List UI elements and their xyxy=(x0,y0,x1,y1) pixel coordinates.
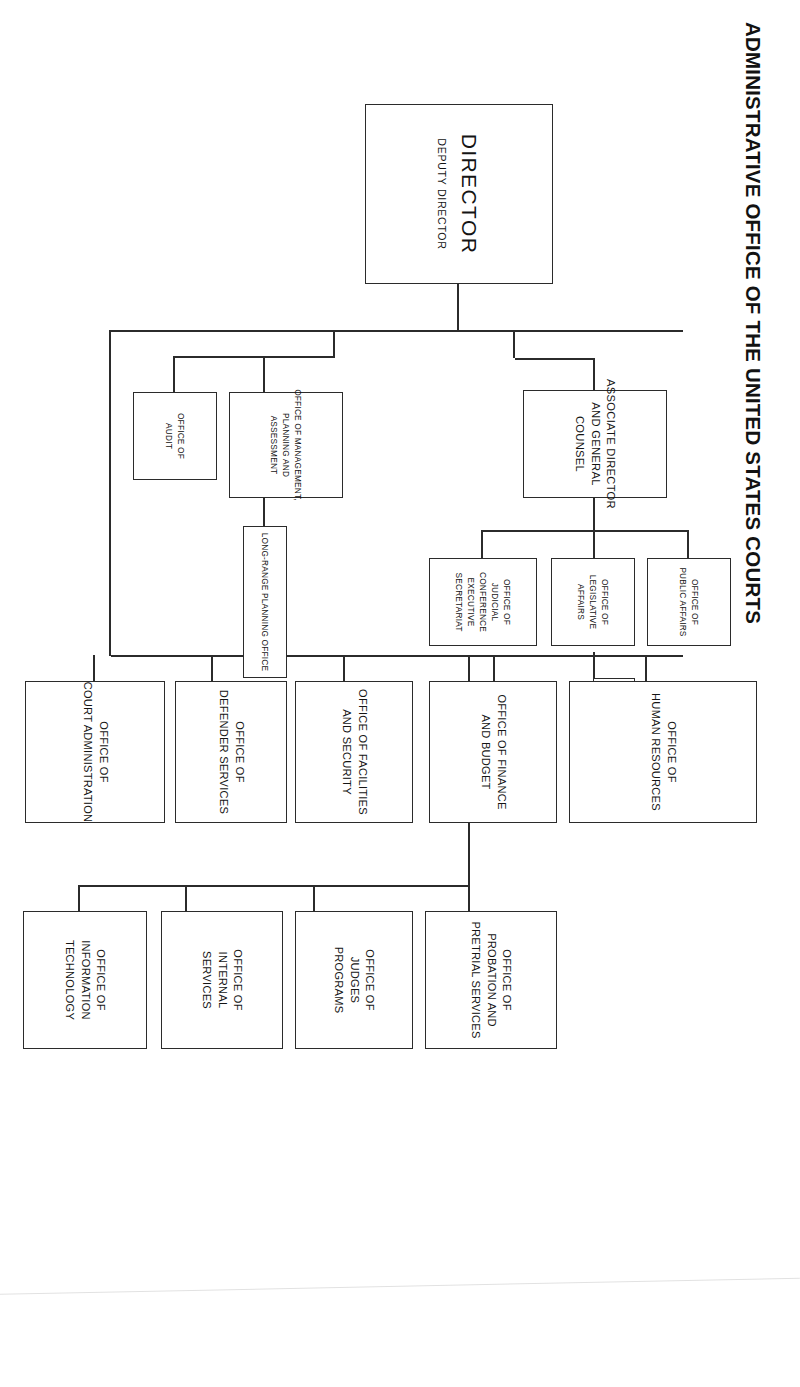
legislative-affairs-line-2: LEGISLATIVE xyxy=(587,575,599,630)
connector-audit-drop xyxy=(175,356,335,358)
connector-assoc-in xyxy=(593,358,595,390)
management-planning-line-2: PLANNING AND xyxy=(280,413,292,477)
connector-management-branch xyxy=(263,356,265,392)
connector-trunk-bridge xyxy=(109,330,111,656)
node-office-of-audit[interactable]: OFFICE OF AUDIT xyxy=(133,392,217,480)
assoc-line-2: AND GENERAL xyxy=(587,402,602,486)
connector-to-internal-services xyxy=(185,885,187,911)
probation-pretrial-line-1: OFFICE OF xyxy=(499,949,515,1010)
judicial-conference-line-3: CONFERENCE xyxy=(477,572,489,632)
judges-programs-line-1: OFFICE OF xyxy=(362,949,378,1010)
connector-to-probation-pretrial xyxy=(468,885,470,911)
connector-to-legislative-affairs xyxy=(593,530,595,558)
judicial-conference-line-2: JUDICIAL xyxy=(489,583,501,621)
judges-programs-line-2: JUDGES xyxy=(346,957,362,1004)
information-technology-line-1: OFFICE OF xyxy=(93,949,109,1010)
connector-to-court-administration xyxy=(93,655,95,681)
facilities-security-line-2: AND SECURITY xyxy=(338,709,354,795)
node-office-of-facilities-and-security[interactable]: OFFICE OF FACILITIES AND SECURITY xyxy=(295,681,413,823)
node-office-of-public-affairs[interactable]: OFFICE OF PUBLIC AFFAIRS xyxy=(647,558,731,646)
legislative-affairs-line-1: OFFICE OF xyxy=(599,579,611,625)
judicial-conference-line-1: OFFICE OF xyxy=(501,579,513,625)
node-office-of-internal-services[interactable]: OFFICE OF INTERNAL SERVICES xyxy=(161,911,283,1049)
judges-programs-line-3: PROGRAMS xyxy=(331,947,347,1014)
internal-services-line-2: INTERNAL xyxy=(214,952,230,1009)
internal-services-line-3: SERVICES xyxy=(199,951,215,1009)
chart-title: ADMINISTRATIVE OFFICE OF THE UNITED STAT… xyxy=(741,22,765,624)
court-administration-line-1: OFFICE OF xyxy=(95,721,111,782)
node-office-of-judicial-conference-executive-secretariat[interactable]: OFFICE OF JUDICIAL CONFERENCE EXECUTIVE … xyxy=(429,558,537,646)
information-technology-line-2: INFORMATION xyxy=(77,940,93,1020)
connector-to-finance-budget xyxy=(493,655,495,681)
director-title: DIRECTOR xyxy=(458,134,482,255)
connector-assoc-drop xyxy=(515,358,595,360)
node-long-range-planning-office[interactable]: LONG-RANGE PLANNING OFFICE xyxy=(243,526,287,678)
management-planning-line-3: ASSESSMENT xyxy=(268,416,280,475)
assoc-line-3: COUNSEL xyxy=(572,416,587,472)
finance-budget-line-1: OFFICE OF FINANCE xyxy=(493,694,509,809)
court-administration-line-2: COURT ADMINISTRATION xyxy=(79,682,95,823)
connector-long-range xyxy=(263,498,265,526)
long-range-planning-line-1: LONG-RANGE PLANNING OFFICE xyxy=(260,533,270,671)
connector-to-human-resources xyxy=(645,655,647,681)
human-resources-line-1: OFFICE OF xyxy=(663,721,679,782)
defender-services-line-1: OFFICE OF xyxy=(231,721,247,782)
connector-offices-trunk xyxy=(111,655,683,657)
node-office-of-information-technology[interactable]: OFFICE OF INFORMATION TECHNOLOGY xyxy=(23,911,147,1049)
connector-to-judges-programs xyxy=(313,885,315,911)
connector-assoc-out xyxy=(593,498,595,530)
connector-assoc-branch xyxy=(513,330,515,358)
probation-pretrial-line-2: PROBATION AND xyxy=(483,933,499,1027)
human-resources-line-2: HUMAN RESOURCES xyxy=(647,693,663,811)
audit-line-2: AUDIT xyxy=(163,423,175,449)
probation-pretrial-line-3: PRETRIAL SERVICES xyxy=(468,921,484,1038)
management-planning-line-1: OFFICE OF MANAGEMENT, xyxy=(292,389,304,501)
public-affairs-line-1: OFFICE OF xyxy=(689,579,701,625)
connector-to-public-affairs xyxy=(687,530,689,558)
facilities-security-line-1: OFFICE OF FACILITIES xyxy=(354,689,370,815)
node-office-of-human-resources[interactable]: OFFICE OF HUMAN RESOURCES xyxy=(569,681,757,823)
finance-budget-line-2: AND BUDGET xyxy=(477,714,493,789)
information-technology-line-3: TECHNOLOGY xyxy=(62,940,78,1020)
connector-audit-in xyxy=(173,356,175,392)
connector-assoc-subtrunk xyxy=(483,530,689,532)
connector-director-stem xyxy=(457,284,459,330)
legislative-affairs-line-3: AFFAIRS xyxy=(575,584,587,620)
connector-offices-trunk-2 xyxy=(80,885,470,887)
connector-audit-branch xyxy=(333,330,335,356)
judicial-conference-line-4: EXECUTIVE xyxy=(465,578,477,627)
node-office-of-finance-and-budget[interactable]: OFFICE OF FINANCE AND BUDGET xyxy=(429,681,557,823)
node-office-of-court-administration[interactable]: OFFICE OF COURT ADMINISTRATION xyxy=(25,681,165,823)
node-office-of-legislative-affairs[interactable]: OFFICE OF LEGISLATIVE AFFAIRS xyxy=(551,558,635,646)
audit-line-1: OFFICE OF xyxy=(175,413,187,459)
director-subtitle: DEPUTY DIRECTOR xyxy=(437,138,449,249)
connector-to-facilities-security xyxy=(343,655,345,681)
assoc-line-1: ASSOCIATE DIRECTOR xyxy=(603,379,618,509)
node-office-of-judges-programs[interactable]: OFFICE OF JUDGES PROGRAMS xyxy=(295,911,413,1049)
node-office-of-defender-services[interactable]: OFFICE OF DEFENDER SERVICES xyxy=(175,681,287,823)
connector-to-judicial-conference xyxy=(481,530,483,558)
connector-to-information-technology xyxy=(78,885,80,911)
public-affairs-line-2: PUBLIC AFFAIRS xyxy=(677,567,689,636)
connector-main-trunk xyxy=(111,330,683,332)
judicial-conference-line-5: SECRETARIAT xyxy=(453,572,465,631)
node-office-of-probation-and-pretrial-services[interactable]: OFFICE OF PROBATION AND PRETRIAL SERVICE… xyxy=(425,911,557,1049)
internal-services-line-1: OFFICE OF xyxy=(230,949,246,1010)
defender-services-line-2: DEFENDER SERVICES xyxy=(215,690,231,814)
node-office-of-management-planning-and-assessment[interactable]: OFFICE OF MANAGEMENT, PLANNING AND ASSES… xyxy=(229,392,343,498)
connector-to-defender-services xyxy=(211,655,213,681)
node-associate-director[interactable]: ASSOCIATE DIRECTOR AND GENERAL COUNSEL xyxy=(523,390,667,498)
node-director[interactable]: DIRECTOR DEPUTY DIRECTOR xyxy=(365,104,553,284)
